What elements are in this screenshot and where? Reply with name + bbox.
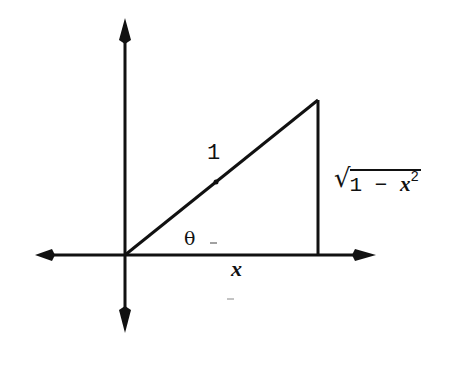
square-root-icon: √ [334,165,351,191]
up-arrow-icon [119,18,131,44]
radicand-variable: x [400,172,411,196]
down-arrow-icon [119,306,131,333]
hypotenuse-midpoint-dot [214,180,219,185]
adjacent-side-label: x [231,258,242,280]
x-axis [35,249,376,261]
diagram-canvas: 1 θ x √ 1 − x2 [0,0,468,365]
opposite-side-label: √ 1 − x2 [334,167,421,196]
radicand-constant: 1 − [350,174,400,197]
left-arrow-icon [35,249,55,261]
right-arrow-icon [352,249,376,261]
right-triangle [125,100,318,255]
angle-theta-label: θ [184,229,195,248]
hypotenuse-line [125,100,318,255]
y-axis [119,18,131,333]
radicand: 1 − x2 [350,169,421,196]
exponent: 2 [411,169,419,185]
hypotenuse-label: 1 [207,143,220,165]
